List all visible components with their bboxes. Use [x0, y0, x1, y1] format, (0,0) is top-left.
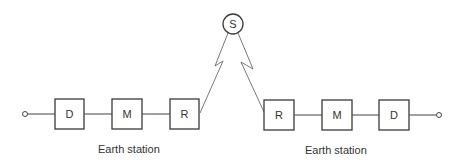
right-terminal	[437, 113, 442, 118]
right-station: R M D Earth station	[264, 100, 442, 156]
satellite: S	[223, 14, 243, 34]
left-block-r-label: R	[181, 108, 189, 120]
left-block-m-label: M	[122, 108, 131, 120]
right-station-label: Earth station	[305, 144, 367, 156]
satellite-label: S	[229, 18, 236, 30]
left-station: D M R Earth station	[23, 99, 200, 155]
left-terminal	[23, 112, 28, 117]
uplink-bolt-icon	[200, 33, 228, 113]
downlink-bolt-icon	[238, 33, 264, 112]
right-block-r-label: R	[275, 109, 283, 121]
left-station-label: Earth station	[98, 143, 160, 155]
right-block-d-label: D	[390, 109, 398, 121]
right-block-m-label: M	[332, 109, 341, 121]
left-block-d-label: D	[66, 108, 74, 120]
satellite-link-diagram: D M R Earth station S R M D Earth statio…	[0, 0, 466, 165]
